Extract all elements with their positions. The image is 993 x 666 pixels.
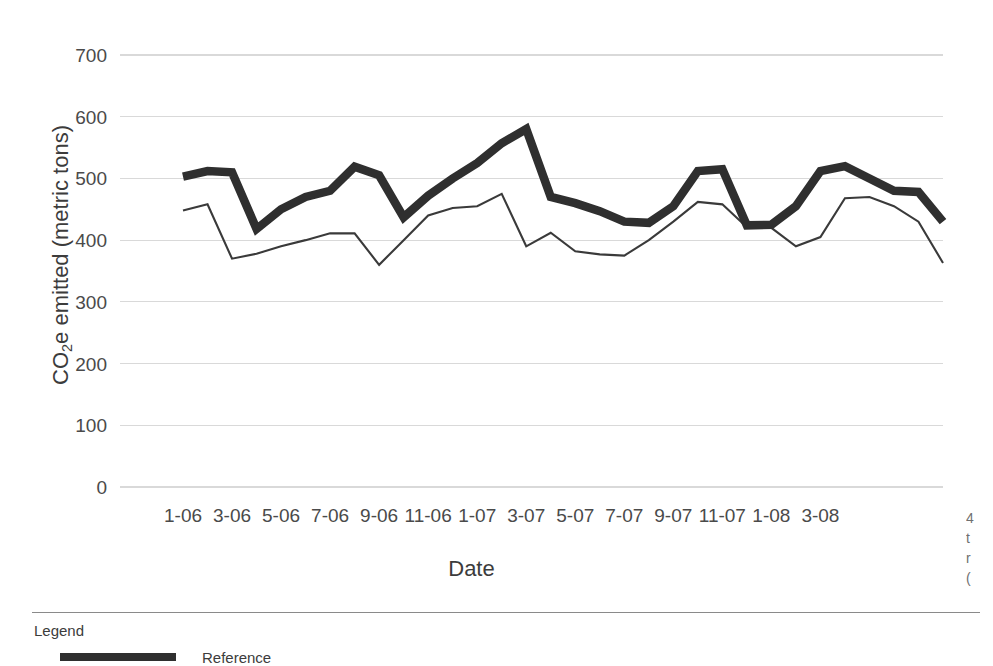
y-axis-tick-label: 500 [75, 168, 107, 189]
y-axis-title-suffix: e emitted (metric tons) [48, 125, 73, 344]
cropped-side-text-line4: ( [966, 568, 993, 588]
y-axis-title-subscript: 2 [59, 344, 75, 352]
x-axis-tick-label: 1-08 [752, 505, 790, 526]
y-axis-tick-labels: 0100200300400500600700 [75, 45, 107, 498]
y-axis-tick-label: 300 [75, 292, 107, 313]
data-series-layer [183, 129, 943, 265]
x-axis-tick-label: 1-06 [164, 505, 202, 526]
y-axis-tick-label: 700 [75, 45, 107, 66]
y-axis-title-text: CO2e emitted (metric tons) [50, 125, 72, 385]
legend-swatch-reference [60, 653, 176, 661]
y-axis-tick-label: 400 [75, 230, 107, 251]
x-axis-tick-label: 5-07 [556, 505, 594, 526]
y-axis-tick-label: 0 [96, 477, 107, 498]
cropped-side-text-line1: 4 [966, 508, 993, 528]
legend-label-reference: Reference [202, 649, 271, 666]
legend-item-reference: Reference [32, 648, 532, 666]
x-axis-tick-label: 3-07 [507, 505, 545, 526]
cropped-side-text-line2: t [966, 528, 993, 548]
x-axis-tick-label: 3-06 [213, 505, 251, 526]
x-axis-tick-label: 9-07 [654, 505, 692, 526]
y-axis-tick-label: 200 [75, 354, 107, 375]
y-axis-tick-label: 600 [75, 107, 107, 128]
cropped-side-text-line3: r [966, 548, 993, 568]
y-axis-title-prefix: CO [48, 352, 73, 385]
x-axis-tick-label: 7-07 [605, 505, 643, 526]
y-axis-tick-label: 100 [75, 415, 107, 436]
plot-area: 0100200300400500600700 1-063-065-067-069… [0, 0, 993, 610]
x-axis-tick-label: 9-06 [360, 505, 398, 526]
x-axis-tick-label: 3-08 [801, 505, 839, 526]
emissions-line-chart: 0100200300400500600700 1-063-065-067-069… [0, 0, 993, 666]
chart-svg: 0100200300400500600700 1-063-065-067-069… [0, 0, 993, 610]
legend-divider [32, 612, 980, 613]
x-axis-tick-labels: 1-063-065-067-069-0611-061-073-075-077-0… [164, 505, 839, 526]
x-axis-tick-label: 11-06 [405, 505, 452, 526]
cropped-side-text: 4 t r ( [966, 508, 993, 588]
x-axis-tick-label: 1-07 [458, 505, 496, 526]
x-axis-title: Date [0, 556, 943, 582]
gridlines [120, 55, 943, 487]
legend: Legend Reference [32, 622, 532, 666]
x-axis-tick-label: 7-06 [311, 505, 349, 526]
series-line-reference [183, 129, 943, 229]
x-axis-tick-label: 11-07 [699, 505, 746, 526]
y-axis-title: CO2e emitted (metric tons) [44, 90, 78, 420]
legend-title: Legend [34, 622, 532, 639]
x-axis-tick-label: 5-06 [262, 505, 300, 526]
